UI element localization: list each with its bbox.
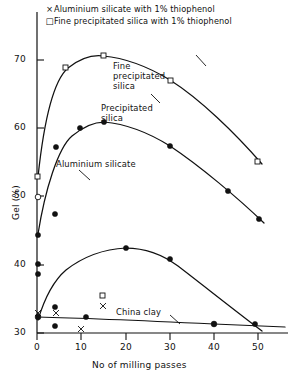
x-axis-ticks xyxy=(37,333,258,340)
y-tick-60: 60 xyxy=(14,122,26,132)
curve-precipitated-silica xyxy=(38,122,264,234)
x-tick-50: 50 xyxy=(252,342,264,352)
leader-precipitated-silica xyxy=(151,94,160,103)
y-axis-title: Gel (%) xyxy=(11,185,21,220)
legend-marker-open-square-icon: □ xyxy=(45,16,54,26)
y-tick-40: 40 xyxy=(14,259,26,269)
plot-svg xyxy=(0,0,293,389)
x-axis-title: No of milling passes xyxy=(92,360,187,370)
markers-precipitated-silica xyxy=(35,119,261,237)
y-tick-30: 30 xyxy=(14,327,26,337)
leader-aluminium-silicate xyxy=(79,170,90,180)
legend-item-aluminium-silicate-thiophenol: ×Aluminium silicate with 1% thiophenol xyxy=(45,4,215,14)
annotation-precipitated-silica-line2: silica xyxy=(101,114,123,124)
x-tick-20: 20 xyxy=(120,342,132,352)
leader-fine-precipitated-silica xyxy=(196,55,206,66)
x-tick-30: 30 xyxy=(164,342,176,352)
x-tick-40: 40 xyxy=(208,342,220,352)
curve-china-clay xyxy=(38,317,285,327)
annotation-aluminium-silicate: Aluminium silicate xyxy=(56,160,136,170)
legend-label-fine-precipitated-silica-thiophenol: Fine precipitated silica with 1% thiophe… xyxy=(54,16,232,26)
legend-label-aluminium-silicate-thiophenol: Aluminium silicate with 1% thiophenol xyxy=(54,4,215,14)
x-tick-10: 10 xyxy=(75,342,87,352)
annotation-fine-precipitated-silica-line3: silica xyxy=(113,82,135,92)
x-tick-0: 0 xyxy=(34,342,40,352)
legend-marker-x-icon: × xyxy=(45,4,54,14)
markers-fine-precipitated-silica-thiophenol xyxy=(100,293,105,298)
gel-vs-milling-passes-chart: ×Aluminium silicate with 1% thiophenol □… xyxy=(0,0,293,389)
legend-item-fine-precipitated-silica-thiophenol: □Fine precipitated silica with 1% thioph… xyxy=(45,16,232,26)
annotation-china-clay: China clay xyxy=(116,308,161,318)
y-tick-70: 70 xyxy=(14,54,26,64)
